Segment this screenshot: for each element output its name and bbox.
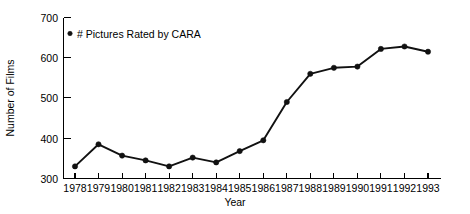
chart-legend: # Pictures Rated by CARA <box>68 28 201 40</box>
x-axis-tick-labels: 1978197919801981198219831984198519861987… <box>63 182 440 194</box>
data-point-1981 <box>143 158 148 163</box>
y-tick-label-400: 400 <box>40 133 58 145</box>
series-line-pictures-rated <box>75 47 428 167</box>
x-tick-label-1991: 1991 <box>369 182 393 194</box>
x-tick-label-1990: 1990 <box>346 182 370 194</box>
x-tick-label-1993: 1993 <box>416 182 440 194</box>
data-point-1985 <box>237 149 242 154</box>
data-point-1987 <box>284 99 289 104</box>
x-axis-title: Year <box>224 196 246 208</box>
x-tick-label-1981: 1981 <box>134 182 158 194</box>
x-tick-label-1988: 1988 <box>299 182 323 194</box>
data-point-1991 <box>378 46 383 51</box>
y-tick-label-500: 500 <box>40 92 58 104</box>
x-tick-label-1984: 1984 <box>205 182 229 194</box>
legend-label-pictures-rated: # Pictures Rated by CARA <box>77 28 201 40</box>
data-point-1988 <box>308 71 313 76</box>
data-point-1979 <box>96 142 101 147</box>
data-point-1983 <box>190 155 195 160</box>
data-point-1993 <box>425 49 430 54</box>
y-axis-ticks <box>64 18 71 179</box>
x-tick-label-1985: 1985 <box>228 182 252 194</box>
x-tick-label-1986: 1986 <box>252 182 276 194</box>
legend-dot-icon <box>68 31 72 35</box>
x-tick-label-1978: 1978 <box>63 182 87 194</box>
x-tick-label-1983: 1983 <box>181 182 205 194</box>
series-markers <box>72 44 430 169</box>
data-point-1990 <box>355 64 360 69</box>
x-axis-ticks <box>75 173 428 179</box>
x-tick-label-1987: 1987 <box>275 182 299 194</box>
data-point-1984 <box>214 160 219 165</box>
x-tick-label-1989: 1989 <box>322 182 346 194</box>
data-point-1989 <box>331 65 336 70</box>
x-tick-label-1979: 1979 <box>87 182 111 194</box>
data-point-1986 <box>261 138 266 143</box>
data-point-1978 <box>72 164 77 169</box>
data-point-1980 <box>120 153 125 158</box>
chart-container: 700 600 500 400 300 Number of Films 1978… <box>0 0 470 214</box>
y-axis-title: Number of Films <box>4 59 16 136</box>
data-point-1992 <box>402 44 407 49</box>
x-tick-label-1992: 1992 <box>393 182 417 194</box>
y-tick-label-700: 700 <box>40 12 58 24</box>
y-tick-label-300: 300 <box>40 173 58 185</box>
line-chart: 700 600 500 400 300 Number of Films 1978… <box>0 0 470 214</box>
data-point-1982 <box>167 164 172 169</box>
x-tick-label-1982: 1982 <box>157 182 181 194</box>
x-tick-label-1980: 1980 <box>110 182 134 194</box>
y-tick-label-600: 600 <box>40 52 58 64</box>
y-axis-tick-labels: 700 600 500 400 300 <box>40 12 58 185</box>
